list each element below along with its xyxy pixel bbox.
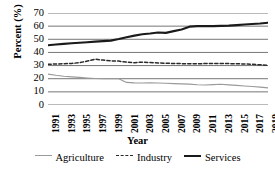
x-tick-label: 1995 — [83, 114, 93, 133]
x-tick-label: 2013 — [225, 114, 235, 133]
x-tick-label: 2003 — [146, 114, 156, 133]
x-axis-tick-labels: 1991199319951997199920012003200520072009… — [48, 106, 268, 138]
x-tick-label: 2015 — [241, 114, 251, 133]
x-tick-label: 1999 — [115, 114, 125, 133]
y-axis-tick-labels: 010203040506070 — [19, 0, 44, 176]
x-tick-label: 2001 — [131, 114, 141, 133]
line-chart: Percent (%) 010203040506070 199119931995… — [0, 0, 275, 176]
x-tick-label: 2009 — [193, 114, 203, 133]
series-line-industry — [48, 59, 268, 65]
legend-label: Agriculture — [56, 152, 104, 163]
plot-area — [48, 13, 268, 105]
legend-label: Industry — [137, 152, 172, 163]
x-tick-label: 1997 — [99, 114, 109, 133]
x-tick-label: 2011 — [209, 115, 219, 133]
x-tick-label: 1993 — [68, 114, 78, 133]
legend-item-agriculture[interactable]: Agriculture — [35, 152, 104, 163]
legend-swatch-services-icon — [184, 155, 201, 161]
x-tick-label: 2005 — [162, 114, 172, 133]
y-tick-label: 0 — [19, 100, 44, 111]
x-tick-label: 2017 — [256, 114, 266, 133]
legend-item-industry[interactable]: Industry — [116, 152, 172, 163]
x-tick-label: 2019 — [272, 114, 275, 133]
chart-legend: AgricultureIndustryServices — [0, 152, 275, 163]
legend-label: Services — [205, 152, 241, 163]
legend-swatch-agriculture-icon — [35, 155, 52, 160]
x-tick-label: 1991 — [52, 114, 62, 133]
y-tick-label: 30 — [19, 60, 44, 71]
y-tick-label: 20 — [19, 73, 44, 84]
x-tick-label: 2007 — [178, 114, 188, 133]
legend-swatch-industry-icon — [116, 155, 133, 160]
x-axis-label: Year — [0, 135, 275, 146]
legend-item-services[interactable]: Services — [184, 152, 241, 163]
y-tick-label: 10 — [19, 86, 44, 97]
series-line-agriculture — [48, 74, 268, 88]
y-tick-label: 40 — [19, 47, 44, 58]
y-tick-label: 60 — [19, 21, 44, 32]
y-tick-label: 50 — [19, 34, 44, 45]
y-tick-label: 70 — [19, 8, 44, 19]
